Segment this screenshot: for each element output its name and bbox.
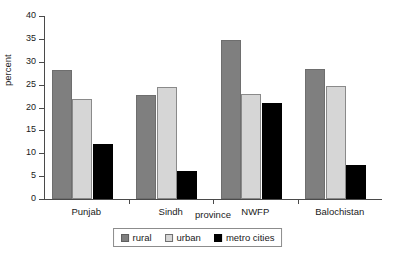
x-axis-group-separator-tick — [213, 199, 214, 204]
legend-item: urban — [165, 232, 201, 243]
bar — [326, 86, 346, 199]
bar — [346, 165, 366, 199]
legend-label: urban — [177, 232, 201, 243]
y-axis-tick-mark — [39, 16, 44, 17]
y-axis-tick-mark — [39, 85, 44, 86]
legend-label: metro cities — [226, 232, 275, 243]
legend-label: rural — [133, 232, 152, 243]
y-axis-tick-label: 10 — [26, 147, 36, 157]
plot-area: 0510152025303540 PunjabSindhNWFPBalochis… — [44, 16, 382, 200]
bar — [177, 171, 197, 199]
legend-swatch-rural-icon — [121, 234, 129, 242]
y-axis-tick-mark — [39, 130, 44, 131]
bar — [136, 95, 156, 199]
y-axis-tick-mark — [39, 62, 44, 63]
bar — [72, 99, 92, 199]
bar-group — [136, 16, 197, 199]
legend-item: metro cities — [214, 232, 275, 243]
legend-item: rural — [121, 232, 152, 243]
y-axis-tick-mark — [39, 108, 44, 109]
bar — [305, 69, 325, 199]
y-axis-tick-label: 0 — [31, 193, 36, 203]
x-axis-group-separator-tick — [129, 199, 130, 204]
y-axis-tick-mark — [39, 153, 44, 154]
bar — [241, 94, 261, 199]
y-axis-tick-label: 30 — [26, 56, 36, 66]
y-axis-line — [44, 16, 45, 200]
y-axis-title: percent — [2, 54, 13, 86]
bar — [93, 144, 113, 199]
x-axis-group-separator-tick — [298, 199, 299, 204]
y-axis-tick-label: 5 — [31, 170, 36, 180]
chart-legend: ruralurbanmetro cities — [113, 228, 283, 247]
bar — [221, 40, 241, 199]
y-axis-tick-mark — [39, 199, 44, 200]
bar-group — [221, 16, 282, 199]
y-axis-tick-mark — [39, 39, 44, 40]
y-axis-tick-label: 20 — [26, 102, 36, 112]
y-axis-tick-label: 40 — [26, 10, 36, 20]
bar — [157, 87, 177, 199]
bar — [52, 70, 72, 199]
bar-chart-figure: percent 0510152025303540 PunjabSindhNWFP… — [0, 0, 395, 255]
y-axis-tick-label: 25 — [26, 79, 36, 89]
legend-swatch-metro-icon — [214, 234, 222, 242]
x-axis-title: province — [44, 209, 382, 220]
y-axis-tick-label: 15 — [26, 124, 36, 134]
y-axis-tick-mark — [39, 176, 44, 177]
y-axis-tick-label: 35 — [26, 33, 36, 43]
bar-group — [52, 16, 113, 199]
bar — [262, 103, 282, 199]
bar-group — [305, 16, 366, 199]
legend-swatch-urban-icon — [165, 234, 173, 242]
